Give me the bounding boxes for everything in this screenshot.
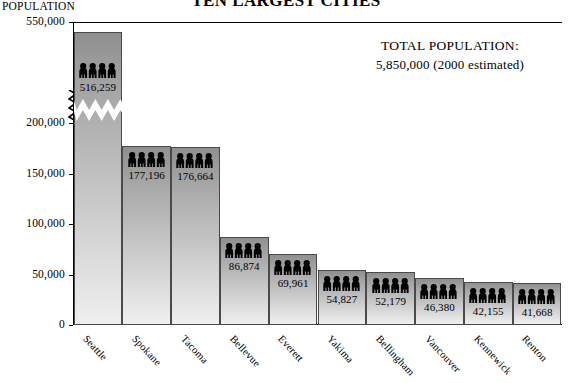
- y-axis-tick-label: 150,000: [1, 167, 65, 179]
- bar-value-label: 176,664: [172, 170, 219, 182]
- bar-tacoma[interactable]: 176,664: [171, 147, 220, 325]
- people-group-icon: [75, 63, 122, 78]
- chart-title: TEN LARGEST CITIES: [0, 0, 572, 11]
- y-axis-tick-label: 0: [1, 318, 65, 330]
- x-axis-labels: SeattleSpokaneTacomaBellevueEverettYakim…: [73, 329, 562, 383]
- y-axis-tick-label: 200,000: [1, 116, 65, 128]
- x-axis-label-bellevue: Bellevue: [227, 333, 262, 369]
- x-axis-label-spokane: Spokane: [130, 333, 164, 368]
- x-axis-label-everett: Everett: [276, 333, 306, 364]
- x-axis-label-seattle: Seattle: [81, 333, 109, 362]
- bar-bellevue[interactable]: 86,874: [220, 237, 269, 325]
- people-group-icon: [270, 260, 317, 275]
- population-bar-chart: TEN LARGEST CITIES POPULATION TOTAL POPU…: [0, 0, 572, 383]
- y-axis-title: POPULATION: [2, 0, 75, 12]
- bar-vancouver[interactable]: 46,380: [415, 278, 464, 325]
- x-axis-label-bellingham: Bellingham: [374, 333, 417, 378]
- y-axis-tick-label: 550,000: [1, 15, 65, 27]
- y-axis-tick-mark: [69, 123, 73, 124]
- bar-break-zigzag-bottom: [74, 110, 124, 121]
- people-group-icon: [172, 153, 219, 168]
- y-axis-tick-label: 100,000: [1, 217, 65, 229]
- bar-break-zigzag-top: [74, 99, 124, 110]
- bar-yakima[interactable]: 54,827: [318, 270, 367, 325]
- bar-value-label: 69,961: [270, 277, 317, 289]
- bar-value-label: 41,668: [514, 306, 561, 318]
- bar-everett[interactable]: 69,961: [269, 254, 318, 325]
- y-axis-tick-mark: [69, 224, 73, 225]
- bar-spokane[interactable]: 177,196: [122, 146, 171, 325]
- plot-top-rule: [73, 22, 562, 23]
- x-axis-label-vancouver: Vancouver: [423, 333, 463, 375]
- bar-value-label: 86,874: [221, 260, 268, 272]
- people-group-icon: [123, 152, 170, 167]
- bar-value-label: 516,259: [75, 81, 122, 93]
- y-axis-tick-mark: [69, 174, 73, 175]
- bar-renton[interactable]: 41,668: [513, 283, 562, 325]
- bar-value-label: 54,827: [319, 293, 366, 305]
- y-axis-tick-label: 50,000: [1, 268, 65, 280]
- y-axis-tick-mark: [69, 325, 73, 326]
- bar-kennewick[interactable]: 42,155: [464, 282, 513, 325]
- y-axis-tick-mark: [69, 275, 73, 276]
- bar-value-label: 42,155: [465, 305, 512, 317]
- x-axis-label-kennewick: Kennewick: [471, 333, 513, 377]
- x-axis-label-tacoma: Tacoma: [179, 333, 210, 366]
- people-group-icon: [416, 284, 463, 299]
- y-axis-tick-mark: [69, 22, 73, 23]
- x-axis-label-renton: Renton: [520, 333, 550, 364]
- bar-seattle[interactable]: 516,259: [74, 32, 123, 325]
- people-group-icon: [514, 289, 561, 304]
- bar-bellingham[interactable]: 52,179: [366, 272, 415, 325]
- people-group-icon: [221, 243, 268, 258]
- bar-value-label: 177,196: [123, 169, 170, 181]
- bar-value-label: 46,380: [416, 301, 463, 313]
- bar-value-label: 52,179: [367, 295, 414, 307]
- people-group-icon: [319, 276, 366, 291]
- x-axis-label-yakima: Yakima: [325, 333, 356, 365]
- plot-area: 550,000200,000150,000100,00050,0000 516,…: [73, 22, 562, 325]
- people-group-icon: [465, 288, 512, 303]
- people-group-icon: [367, 278, 414, 293]
